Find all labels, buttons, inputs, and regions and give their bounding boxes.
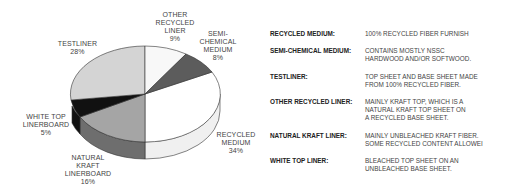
definition-desc: MAINLY KRAFT TOP, WHICH IS A NATURAL KRA… [365, 98, 466, 123]
definition-row: NATURAL KRAFT LINER: MAINLY UNBLEACHED K… [270, 132, 508, 148]
label-white-top-linerboard: WHITE TOP LINERBOARD 5% [20, 113, 72, 137]
definition-row: WHITE TOP LINER: BLEACHED TOP SHEET ON A… [270, 157, 508, 173]
definition-term: WHITE TOP LINER: [270, 157, 365, 173]
pie-chart: OTHER RECYCLED LINER 9% SEMI- CHEMICAL M… [0, 0, 260, 191]
definition-row: RECYCLED MEDIUM: 100% RECYCLED FIBER FUR… [270, 30, 508, 38]
label-semi-chemical-medium: SEMI- CHEMICAL MEDIUM 8% [197, 30, 239, 62]
label-recycled-medium: RECYCLED MEDIUM 34% [212, 131, 260, 155]
definition-term: SEMI-CHEMICAL MEDIUM: [270, 47, 365, 63]
label-testliner: TESTLINER 28% [55, 40, 100, 56]
label-natural-kraft-linerboard: NATURAL KRAFT LINERBOARD 16% [62, 154, 114, 186]
definition-desc: CONTAINS MOSTLY NSSC HARDWOOD AND/OR SOF… [365, 47, 471, 63]
pie-chart-graphic [0, 0, 260, 191]
definition-row: SEMI-CHEMICAL MEDIUM: CONTAINS MOSTLY NS… [270, 47, 508, 63]
definition-desc: TOP SHEET AND BASE SHEET MADE FROM 100% … [365, 73, 478, 89]
definition-row: OTHER RECYCLED LINER: MAINLY KRAFT TOP, … [270, 98, 508, 123]
definition-desc: 100% RECYCLED FIBER FURNISH [365, 30, 469, 38]
definition-term: TESTLINER: [270, 73, 365, 89]
definition-term: RECYCLED MEDIUM: [270, 30, 365, 38]
definition-desc: MAINLY UNBLEACHED KRAFT FIBER. SOME RECY… [365, 132, 483, 148]
definition-desc: BLEACHED TOP SHEET ON AN UNBLEACHED BASE… [365, 157, 459, 173]
definitions-list: RECYCLED MEDIUM: 100% RECYCLED FIBER FUR… [270, 30, 508, 182]
definition-row: TESTLINER: TOP SHEET AND BASE SHEET MADE… [270, 73, 508, 89]
label-other-recycled-liner: OTHER RECYCLED LINER 9% [150, 11, 200, 43]
definition-term: NATURAL KRAFT LINER: [270, 132, 365, 148]
definition-term: OTHER RECYCLED LINER: [270, 98, 365, 123]
